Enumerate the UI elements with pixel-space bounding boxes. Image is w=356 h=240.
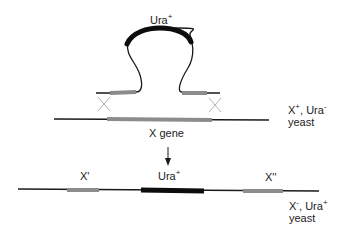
x-crossover-icon xyxy=(98,97,110,111)
x-crossover-icon xyxy=(209,98,221,112)
chromosome-before: X gene X+, Ura- yeast xyxy=(54,102,327,139)
construct-marker-label: Ura+ xyxy=(150,12,173,26)
genotype-before-line1: X+, Ura- xyxy=(288,102,327,116)
chromosome-after: X' Ura+ X'' X-, Ura+ yeast xyxy=(18,168,328,224)
down-arrow-icon xyxy=(165,147,171,166)
genotype-after-line2: yeast xyxy=(289,212,315,224)
genotype-after-line1: X-, Ura+ xyxy=(289,198,328,212)
x-double-prime-label: X'' xyxy=(265,171,277,183)
ura-segment xyxy=(141,190,204,191)
construct-ura-segment xyxy=(127,28,191,44)
x-gene-segment xyxy=(107,119,212,120)
construct-loop xyxy=(96,28,220,93)
x-gene-label: X gene xyxy=(149,127,184,139)
genotype-before-line2: yeast xyxy=(288,116,314,128)
construct-left-homology xyxy=(110,92,136,93)
gene-disruption-diagram: Ura+ X gene X+, Ura- yeast X' Ura+ X'' xyxy=(0,0,356,240)
x-prime-label: X' xyxy=(80,170,89,182)
transforming-construct: Ura+ xyxy=(96,12,220,93)
ura-marker-label: Ura+ xyxy=(158,168,181,182)
